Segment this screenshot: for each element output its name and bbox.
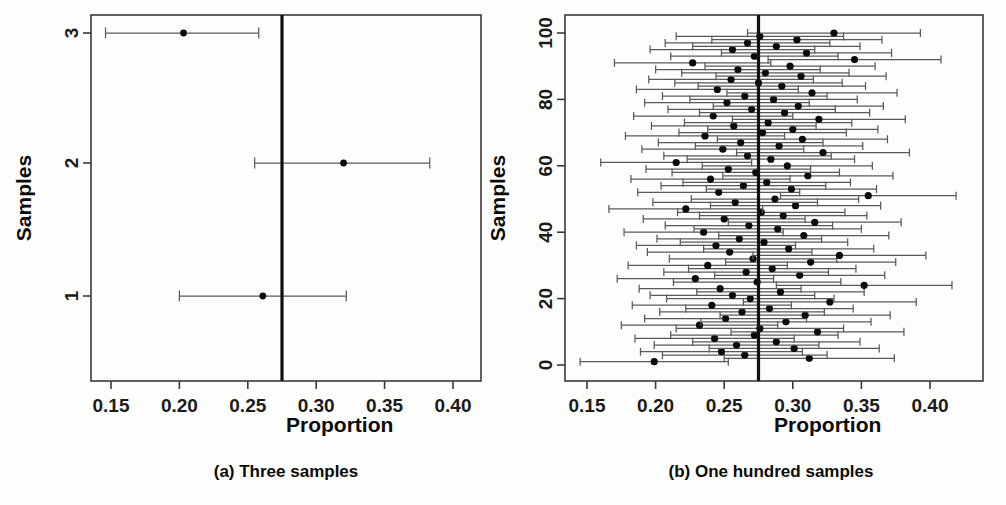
estimate-point bbox=[725, 166, 732, 173]
estimate-point bbox=[696, 322, 703, 329]
estimate-point bbox=[747, 295, 754, 302]
estimate-point bbox=[792, 202, 799, 209]
estimate-point bbox=[700, 229, 707, 236]
panel-caption-b: (b) One hundred samples bbox=[669, 462, 874, 481]
estimate-point bbox=[765, 119, 772, 126]
estimate-point bbox=[692, 275, 699, 282]
estimate-point bbox=[770, 96, 777, 103]
estimate-point bbox=[782, 318, 789, 325]
estimate-point bbox=[775, 142, 782, 149]
estimate-point bbox=[682, 205, 689, 212]
estimate-point bbox=[865, 192, 872, 199]
estimate-point bbox=[766, 305, 773, 312]
estimate-point bbox=[799, 136, 806, 143]
x-axis-label-a: Proportion bbox=[286, 413, 393, 436]
estimate-point bbox=[815, 116, 822, 123]
estimate-point bbox=[788, 185, 795, 192]
estimate-point bbox=[811, 219, 818, 226]
x-tick-label-b-2: 0.25 bbox=[706, 395, 743, 416]
estimate-point bbox=[814, 328, 821, 335]
estimate-point bbox=[851, 56, 858, 63]
estimate-point bbox=[729, 292, 736, 299]
estimate-point bbox=[718, 348, 725, 355]
estimate-point bbox=[719, 146, 726, 153]
estimate-point bbox=[800, 232, 807, 239]
x-axis-b: 0.150.200.250.300.350.40 bbox=[569, 381, 949, 416]
estimate-point bbox=[738, 308, 745, 315]
estimate-point bbox=[340, 160, 347, 167]
x-tick-label-a-0: 0.15 bbox=[93, 395, 130, 416]
estimate-point bbox=[737, 139, 744, 146]
y-axis-b: 020406080100 bbox=[535, 17, 565, 370]
x-axis-a: 0.150.200.250.300.350.40 bbox=[93, 381, 472, 416]
estimate-point bbox=[769, 265, 776, 272]
estimate-point bbox=[736, 235, 743, 242]
estimate-point bbox=[836, 252, 843, 259]
estimate-point bbox=[791, 345, 798, 352]
estimate-point bbox=[773, 43, 780, 50]
estimate-point bbox=[780, 212, 787, 219]
estimate-point bbox=[861, 282, 868, 289]
estimate-point bbox=[748, 106, 755, 113]
estimate-point bbox=[180, 30, 187, 37]
estimate-point bbox=[760, 239, 767, 246]
estimate-point bbox=[743, 268, 750, 275]
estimate-point bbox=[259, 293, 266, 300]
estimate-point bbox=[673, 159, 680, 166]
x-tick-label-a-5: 0.40 bbox=[435, 395, 472, 416]
x-axis-label-b: Proportion bbox=[774, 413, 881, 436]
confidence-interval bbox=[106, 28, 259, 39]
estimate-point bbox=[701, 132, 708, 139]
estimate-point bbox=[723, 99, 730, 106]
estimate-point bbox=[740, 182, 747, 189]
estimate-point bbox=[710, 112, 717, 119]
interval-group-b bbox=[580, 29, 956, 366]
estimate-point bbox=[689, 59, 696, 66]
estimate-point bbox=[807, 258, 814, 265]
estimate-point bbox=[707, 175, 714, 182]
y-tick-label-b-2: 40 bbox=[535, 222, 556, 243]
estimate-point bbox=[784, 162, 791, 169]
estimate-point bbox=[786, 63, 793, 70]
estimate-point bbox=[795, 102, 802, 109]
estimate-point bbox=[716, 285, 723, 292]
x-tick-label-b-1: 0.20 bbox=[637, 395, 674, 416]
estimate-point bbox=[722, 315, 729, 322]
estimate-point bbox=[651, 358, 658, 365]
estimate-point bbox=[712, 242, 719, 249]
estimate-point bbox=[721, 215, 728, 222]
estimate-point bbox=[729, 46, 736, 53]
y-tick-label-b-3: 60 bbox=[535, 155, 556, 176]
estimate-point bbox=[789, 126, 796, 133]
estimate-point bbox=[708, 302, 715, 309]
estimate-point bbox=[741, 92, 748, 99]
estimate-point bbox=[741, 351, 748, 358]
estimate-point bbox=[762, 69, 769, 76]
panel-a: 0.150.200.250.300.350.40Proportion123Sam… bbox=[12, 15, 481, 436]
y-tick-label-a-1: 2 bbox=[61, 158, 82, 169]
estimate-point bbox=[797, 73, 804, 80]
estimate-point bbox=[715, 189, 722, 196]
confidence-interval bbox=[580, 358, 728, 366]
estimate-point bbox=[808, 89, 815, 96]
y-tick-label-b-5: 100 bbox=[535, 17, 556, 49]
estimate-point bbox=[830, 29, 837, 36]
y-tick-label-b-1: 20 bbox=[535, 288, 556, 309]
y-axis-label-b: Samples bbox=[486, 155, 509, 241]
estimate-point bbox=[714, 86, 721, 93]
estimate-point bbox=[781, 109, 788, 116]
y-axis-a: 123 bbox=[61, 28, 91, 302]
estimate-point bbox=[826, 298, 833, 305]
estimate-point bbox=[727, 76, 734, 83]
estimate-point bbox=[778, 83, 785, 90]
estimate-point bbox=[704, 262, 711, 269]
y-tick-label-a-2: 3 bbox=[61, 28, 82, 39]
panel-caption-a: (a) Three samples bbox=[214, 462, 359, 481]
figure-container: 0.150.200.250.300.350.40Proportion123Sam… bbox=[0, 0, 1006, 505]
x-tick-label-a-1: 0.20 bbox=[161, 395, 198, 416]
estimate-point bbox=[774, 225, 781, 232]
y-tick-label-b-4: 80 bbox=[535, 89, 556, 110]
x-tick-label-b-5: 0.40 bbox=[912, 395, 949, 416]
estimate-point bbox=[796, 272, 803, 279]
x-tick-label-b-0: 0.15 bbox=[569, 395, 606, 416]
